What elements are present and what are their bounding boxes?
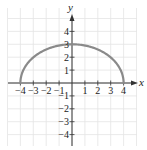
y-axis-label: y — [67, 1, 73, 13]
x-tick-label: 3 — [108, 85, 113, 96]
x-axis-label: x — [138, 76, 144, 88]
y-tick-label: −1 — [58, 90, 69, 101]
ellipse-graph: −4−3−2−11234−4−3−2−11234 x y — [0, 0, 147, 150]
x-tick-label: 1 — [82, 85, 87, 96]
x-tick-label: −4 — [15, 85, 26, 96]
x-tick-label: −2 — [41, 85, 52, 96]
y-tick-label: −3 — [58, 116, 69, 127]
x-axis-arrow-icon — [131, 81, 138, 86]
y-tick-label: 1 — [64, 65, 69, 76]
y-tick-label: −2 — [58, 103, 69, 114]
axes — [8, 14, 138, 146]
x-tick-label: 4 — [121, 85, 126, 96]
y-tick-label: 2 — [64, 52, 69, 63]
y-tick-label: 4 — [64, 26, 69, 37]
x-tick-label: −3 — [28, 85, 39, 96]
x-tick-label: 2 — [95, 85, 100, 96]
y-tick-label: −4 — [58, 129, 69, 140]
y-axis-arrow-icon — [70, 14, 75, 21]
y-tick-label: 3 — [64, 39, 69, 50]
